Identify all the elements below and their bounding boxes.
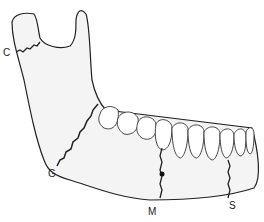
mandible-drawing xyxy=(0,0,264,222)
label-m: M xyxy=(148,206,156,217)
label-c: C xyxy=(3,47,10,58)
mandible-diagram: C G M S xyxy=(0,0,264,222)
label-s: S xyxy=(229,200,236,211)
label-g: G xyxy=(48,168,56,179)
mental-foramen-dot xyxy=(160,172,165,177)
